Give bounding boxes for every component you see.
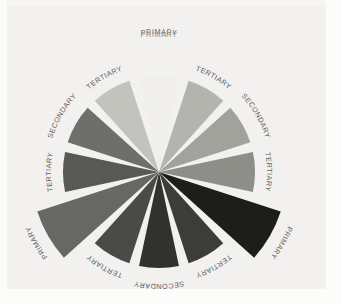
wedge-label-3: TERTIARY	[263, 152, 274, 193]
wheel-wedge-9	[63, 152, 159, 192]
wedge-label-9: TERTIARY	[44, 152, 55, 193]
wheel-wedge-6	[139, 172, 179, 268]
page-title: PRIMARY	[140, 30, 177, 39]
color-wheel-diagram: PRIMARYTERTIARYSECONDARYTERTIARYPRIMARYT…	[0, 0, 342, 305]
color-wheel-figure: PRIMARYTERTIARYSECONDARYTERTIARYPRIMARYT…	[0, 0, 342, 305]
wheel-wedge-0	[139, 76, 179, 172]
wedges-group	[37, 76, 280, 268]
wheel-wedge-3	[159, 152, 255, 192]
wedge-label-6: SECONDARY	[133, 279, 185, 291]
